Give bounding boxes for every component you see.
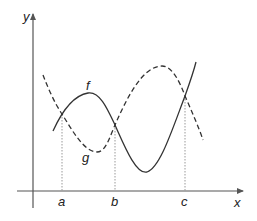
tick-label-c: c — [181, 194, 188, 209]
tick-label-b: b — [111, 194, 118, 209]
graph-canvas: y x f g a b c — [0, 0, 257, 221]
tick-label-a: a — [58, 194, 65, 209]
curve-g — [43, 66, 203, 152]
curve-f-label: f — [86, 78, 91, 93]
y-axis-label: y — [22, 9, 31, 24]
x-axis-label: x — [233, 195, 241, 210]
curve-f — [53, 62, 196, 172]
curve-g-label: g — [82, 150, 90, 165]
